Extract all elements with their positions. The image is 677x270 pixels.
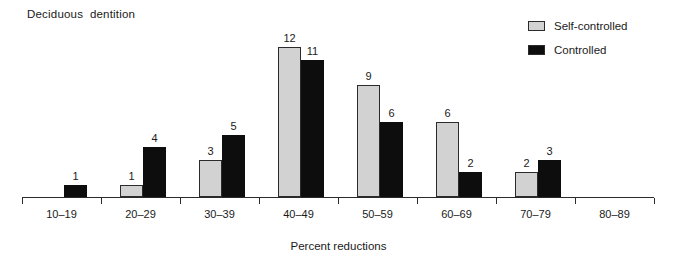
x-axis-tick	[338, 198, 339, 204]
x-axis-label: 40–49	[259, 208, 338, 220]
bar-value-label: 1	[120, 170, 143, 182]
bar-value-label: 3	[199, 145, 222, 157]
bar-controlled	[380, 122, 403, 197]
x-axis-tick	[101, 198, 102, 204]
x-axis-tick	[22, 198, 23, 204]
bar-controlled	[143, 147, 166, 197]
x-axis-tick	[496, 198, 497, 204]
bar-self-controlled	[199, 160, 222, 198]
bar-value-label: 4	[143, 132, 166, 144]
bar-controlled	[459, 172, 482, 197]
x-axis-tick	[654, 198, 655, 204]
bar-value-label: 1	[64, 170, 87, 182]
bar-value-label: 6	[380, 107, 403, 119]
bar-value-label: 12	[278, 32, 301, 44]
bar-value-label: 11	[301, 45, 324, 57]
bar-value-label: 9	[357, 70, 380, 82]
bar-value-label: 5	[222, 120, 245, 132]
bar-self-controlled	[357, 85, 380, 198]
bar-value-label: 6	[436, 107, 459, 119]
x-axis-tick	[575, 198, 576, 204]
x-axis-label: 20–29	[101, 208, 180, 220]
x-axis-tick	[180, 198, 181, 204]
bar-controlled	[301, 60, 324, 198]
bar-controlled	[538, 160, 561, 198]
bar-value-label: 3	[538, 145, 561, 157]
bar-controlled	[64, 185, 87, 198]
x-axis-label: 50–59	[338, 208, 417, 220]
x-axis-tick	[417, 198, 418, 204]
x-axis-tick	[259, 198, 260, 204]
x-axis-label: 80–89	[575, 208, 654, 220]
x-axis-label: 10–19	[22, 208, 101, 220]
bar-chart: Deciduous dentition Self-controlled Cont…	[0, 0, 677, 270]
bar-self-controlled	[436, 122, 459, 197]
bar-self-controlled	[120, 185, 143, 198]
bar-controlled	[222, 135, 245, 198]
x-axis-label: 70–79	[496, 208, 575, 220]
bar-value-label: 2	[459, 157, 482, 169]
bar-self-controlled	[278, 47, 301, 197]
x-axis-label: 30–39	[180, 208, 259, 220]
bar-self-controlled	[515, 172, 538, 197]
x-axis-title: Percent reductions	[0, 240, 677, 252]
x-axis-label: 60–69	[417, 208, 496, 220]
bar-value-label: 2	[515, 157, 538, 169]
plot-area: 114351211966223 10–1920–2930–3940–4950–5…	[0, 0, 677, 270]
